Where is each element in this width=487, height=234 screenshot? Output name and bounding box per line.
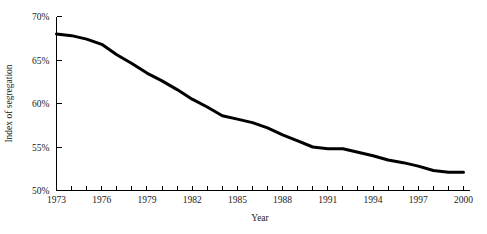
y-tick-label: 60% xyxy=(32,99,50,109)
x-axis-tick-marks xyxy=(57,186,464,191)
x-tick-label: 1985 xyxy=(228,195,247,205)
x-tick-label: 1997 xyxy=(409,195,428,205)
x-tick-label: 1991 xyxy=(318,195,337,205)
x-axis-tick-labels: 1973197619791982198519881991199419972000 xyxy=(47,195,473,205)
x-axis-title: Year xyxy=(251,213,269,223)
data-series-group xyxy=(57,34,464,172)
y-axis-tick-marks xyxy=(57,17,62,191)
x-tick-label: 1982 xyxy=(183,195,202,205)
segregation-index-line-chart: 50%55%60%65%70% 197319761979198219851988… xyxy=(0,0,487,234)
y-axis-title: Index of segregation xyxy=(4,64,14,142)
x-tick-label: 1994 xyxy=(364,195,383,205)
x-tick-label: 1988 xyxy=(273,195,292,205)
x-tick-label: 2000 xyxy=(454,195,473,205)
y-tick-label: 55% xyxy=(32,143,50,153)
segregation-trend-line xyxy=(57,34,464,172)
x-tick-label: 1976 xyxy=(92,195,111,205)
x-tick-label: 1979 xyxy=(137,195,156,205)
y-tick-label: 70% xyxy=(32,12,50,22)
y-axis-tick-labels: 50%55%60%65%70% xyxy=(32,12,50,196)
x-tick-label: 1973 xyxy=(47,195,66,205)
y-tick-label: 65% xyxy=(32,56,50,66)
chart-plot-area: 50%55%60%65%70% 197319761979198219851988… xyxy=(0,0,487,234)
